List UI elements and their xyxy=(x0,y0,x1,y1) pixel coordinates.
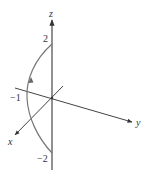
z-tick-label-top: 2 xyxy=(43,33,48,44)
curve-arc xyxy=(27,44,52,153)
diagram-canvas: z y x 2 −2 −1 xyxy=(0,0,149,180)
z-tick-label-bottom: −2 xyxy=(37,153,48,164)
y-axis-label: y xyxy=(135,117,141,128)
x-tick-label-neg: −1 xyxy=(10,92,21,103)
x-axis-label: x xyxy=(7,136,13,147)
x-axis xyxy=(15,86,63,135)
origin-point xyxy=(51,97,53,99)
z-axis-label: z xyxy=(48,8,53,19)
